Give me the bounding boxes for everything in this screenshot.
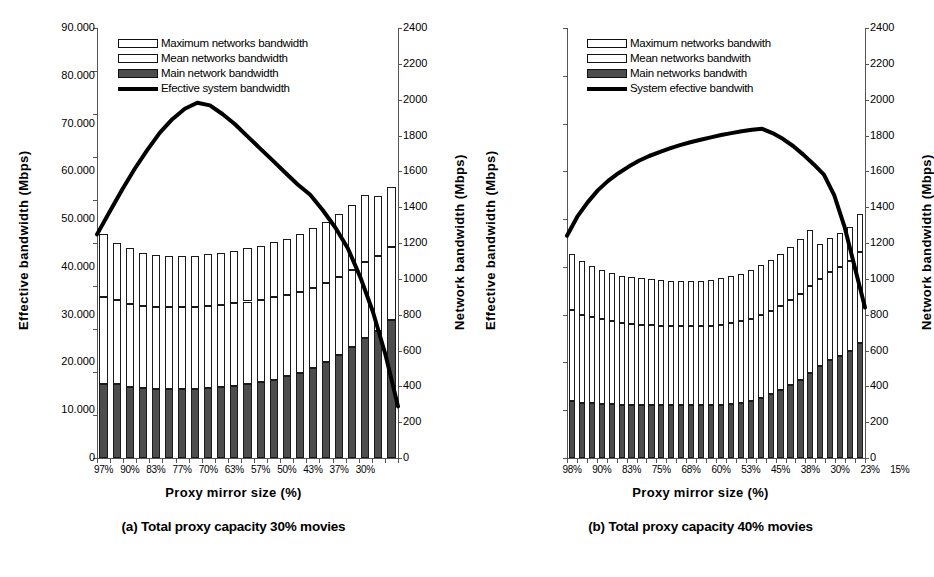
chart-panel-b: Effective bandwidth (Mbps) Network bandw… bbox=[467, 0, 934, 577]
legend-item: Main networks bandwith bbox=[587, 66, 771, 81]
x-tick-mark bbox=[795, 459, 796, 463]
x-tick-label: 57% bbox=[247, 464, 275, 475]
x-tick-label: 43% bbox=[299, 464, 327, 475]
panel-caption-a: (a) Total proxy capacity 30% movies bbox=[0, 519, 467, 534]
legend-item: Mean networks bandwith bbox=[587, 51, 771, 66]
x-tick-label: 53% bbox=[737, 464, 765, 475]
legend-item: Maximum networks bandwith bbox=[587, 36, 771, 51]
x-tick-mark bbox=[567, 459, 568, 463]
y-tick-label-primary: 80.000 bbox=[61, 70, 95, 81]
x-tick-mark bbox=[587, 459, 588, 463]
legend-swatch-min bbox=[587, 69, 627, 78]
legend-item: Maximum networks bandwidth bbox=[118, 36, 308, 51]
x-tick-mark bbox=[706, 459, 707, 463]
x-tick-mark bbox=[398, 459, 399, 463]
y-tick-label-primary: 30.000 bbox=[61, 309, 95, 320]
y-tick-label-primary: 90.000 bbox=[61, 22, 95, 33]
legend-swatch-line bbox=[118, 87, 158, 91]
x-tick-mark bbox=[726, 459, 727, 463]
x-tick-mark bbox=[149, 459, 150, 463]
x-axis-title-a: Proxy mirror size (%) bbox=[0, 485, 467, 500]
x-tick-mark bbox=[372, 459, 373, 463]
x-tick-mark bbox=[776, 459, 777, 463]
x-tick-mark bbox=[306, 459, 307, 463]
x-tick-mark bbox=[607, 459, 608, 463]
panel-caption-b: (b) Total proxy capacity 40% movies bbox=[467, 519, 934, 534]
legend-label: Maximum networks bandwidth bbox=[161, 38, 308, 50]
series-line bbox=[97, 103, 398, 407]
x-tick-label: 83% bbox=[618, 464, 646, 475]
x-tick-mark bbox=[746, 459, 747, 463]
figure-root: Effective bandwidth (Mbps) Network bandw… bbox=[0, 0, 934, 577]
x-tick-mark bbox=[215, 459, 216, 463]
x-tick-mark bbox=[385, 459, 386, 463]
x-tick-mark bbox=[656, 459, 657, 463]
x-tick-mark bbox=[359, 459, 360, 463]
y-tick-label-primary: 70.000 bbox=[61, 118, 95, 129]
x-tick-mark bbox=[756, 459, 757, 463]
legend-label: Main network bandwidth bbox=[161, 68, 278, 80]
x-tick-mark bbox=[189, 459, 190, 463]
y-tick-label-primary: 10.000 bbox=[61, 404, 95, 415]
x-tick-mark bbox=[254, 459, 255, 463]
legend-label: Main networks bandwith bbox=[630, 68, 747, 80]
x-tick-label: 38% bbox=[796, 464, 824, 475]
x-tick-label: 45% bbox=[767, 464, 795, 475]
x-tick-mark bbox=[136, 459, 137, 463]
x-tick-mark bbox=[577, 459, 578, 463]
y-tick-label-primary: 20.000 bbox=[61, 356, 95, 367]
x-tick-mark bbox=[228, 459, 229, 463]
x-tick-mark bbox=[686, 459, 687, 463]
x-tick-label: 70% bbox=[194, 464, 222, 475]
x-tick-label: 68% bbox=[677, 464, 705, 475]
x-tick-mark bbox=[845, 459, 846, 463]
x-tick-label: 37% bbox=[325, 464, 353, 475]
x-tick-mark bbox=[627, 459, 628, 463]
x-tick-mark bbox=[617, 459, 618, 463]
legend-swatch-max bbox=[118, 39, 158, 48]
x-tick-mark bbox=[646, 459, 647, 463]
x-tick-mark bbox=[676, 459, 677, 463]
x-tick-mark bbox=[280, 459, 281, 463]
x-tick-mark bbox=[825, 459, 826, 463]
x-tick-mark bbox=[319, 459, 320, 463]
x-tick-mark bbox=[346, 459, 347, 463]
legend-swatch-mean bbox=[118, 54, 158, 63]
x-tick-mark bbox=[202, 459, 203, 463]
legend-item: Main network bandwidth bbox=[118, 66, 308, 81]
series-line bbox=[567, 129, 865, 308]
x-tick-mark bbox=[110, 459, 111, 463]
x-tick-label: 23% bbox=[856, 464, 884, 475]
x-tick-mark bbox=[805, 459, 806, 463]
legend-swatch-max bbox=[587, 39, 627, 48]
x-tick-label: 15% bbox=[886, 464, 914, 475]
x-tick-mark bbox=[241, 459, 242, 463]
x-tick-label: 77% bbox=[168, 464, 196, 475]
x-tick-mark bbox=[97, 459, 98, 463]
x-tick-mark bbox=[267, 459, 268, 463]
x-tick-mark bbox=[855, 459, 856, 463]
legend-label: Maximum networks bandwith bbox=[630, 38, 771, 50]
x-tick-label: 83% bbox=[142, 464, 170, 475]
legend-swatch-mean bbox=[587, 54, 627, 63]
x-tick-label: 50% bbox=[273, 464, 301, 475]
legend-label: Efective system bandwidth bbox=[161, 83, 290, 95]
x-tick-mark bbox=[162, 459, 163, 463]
x-tick-label: 90% bbox=[588, 464, 616, 475]
x-tick-label: 60% bbox=[707, 464, 735, 475]
x-tick-mark bbox=[176, 459, 177, 463]
x-tick-label: 30% bbox=[826, 464, 854, 475]
x-tick-mark bbox=[865, 459, 866, 463]
legend-swatch-min bbox=[118, 69, 158, 78]
x-tick-mark bbox=[293, 459, 294, 463]
legend-a: Maximum networks bandwidthMean networks … bbox=[118, 36, 308, 96]
x-tick-label: 90% bbox=[116, 464, 144, 475]
legend-item: Efective system bandwidth bbox=[118, 81, 308, 96]
x-tick-mark bbox=[815, 459, 816, 463]
x-axis-line bbox=[97, 458, 399, 459]
x-tick-mark bbox=[666, 459, 667, 463]
legend-item: System efective bandwith bbox=[587, 81, 771, 96]
x-tick-label: 98% bbox=[558, 464, 586, 475]
x-tick-mark bbox=[736, 459, 737, 463]
x-tick-mark bbox=[333, 459, 334, 463]
